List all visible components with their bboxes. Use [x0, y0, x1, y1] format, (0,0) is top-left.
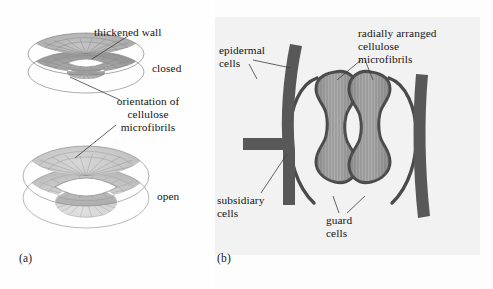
label-guard-line2: cells — [326, 227, 347, 240]
label-epidermal-line1: epidermal — [219, 44, 265, 57]
caption-b: (b) — [217, 252, 231, 264]
epidermal-cell-right — [414, 74, 430, 218]
label-open: open — [157, 190, 179, 203]
label-closed: closed — [152, 62, 181, 75]
open-stoma-shape — [23, 146, 149, 228]
label-orientation-line2: cellulose — [101, 108, 195, 121]
epidermal-cell-left-branch — [243, 138, 284, 150]
caption-a: (a) — [19, 252, 32, 264]
label-subsidiary-line1: subsidiary — [217, 194, 264, 207]
label-radially-line1: radially arranged — [358, 27, 437, 40]
figure-root: thickened wall closed orientation of cel… — [0, 0, 493, 289]
epidermal-cell-left — [243, 44, 302, 205]
subsidiary-cell-right — [389, 78, 416, 203]
label-thickened-wall: thickened wall — [94, 26, 162, 39]
guard-cell-right — [349, 68, 390, 190]
panel-b: epidermal cells radially arranged cellul… — [213, 0, 493, 289]
label-orientation-line1: orientation of — [101, 95, 195, 108]
label-radially-line2: cellulose — [358, 40, 399, 53]
label-epidermal-line2: cells — [219, 57, 240, 70]
label-guard-line1: guard — [326, 214, 352, 227]
label-subsidiary-line2: cells — [217, 207, 238, 220]
label-orientation-line3: microfibrils — [101, 121, 195, 134]
label-radially-line3: microfibrils — [358, 53, 413, 66]
panel-a: thickened wall closed orientation of cel… — [0, 0, 212, 289]
panel-a-graphics — [0, 0, 212, 289]
